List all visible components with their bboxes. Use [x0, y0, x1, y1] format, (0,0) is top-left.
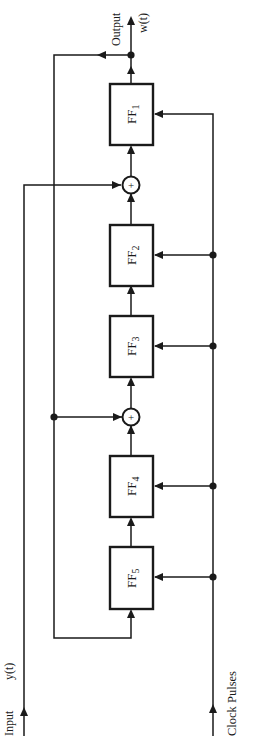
flip-flop-ff3: FF3: [110, 316, 153, 377]
input-section: Input y(t): [2, 181, 121, 736]
flip-flop-ff4: FF4: [110, 456, 153, 517]
clock-section: Clock Pulses: [154, 110, 239, 736]
arrow-up-icon: [127, 609, 135, 618]
arrow-up-icon: [127, 517, 135, 526]
arrow-right-icon: [113, 413, 122, 421]
output-signal-label: w(t): [136, 13, 150, 33]
input-wire: [24, 185, 121, 736]
arrow-left-icon: [97, 51, 106, 59]
summing-junction-b: +: [123, 409, 140, 426]
input-signal-label: y(t): [2, 663, 16, 680]
output-section: Output w(t): [109, 12, 150, 84]
arrow-left-icon: [154, 251, 163, 259]
arrow-left-icon: [154, 482, 163, 490]
arrow-right-icon: [112, 181, 121, 189]
clock-wire: [155, 114, 213, 736]
flip-flop-ff5: FF5: [110, 547, 153, 609]
arrow-left-icon: [154, 110, 163, 118]
clock-arrow-icon: [209, 704, 217, 713]
flip-flop-ff2: FF2: [110, 225, 153, 286]
flip-flop-ff1: FF1: [110, 84, 153, 145]
input-arrow-icon: [20, 707, 28, 716]
output-label: Output: [109, 12, 123, 46]
arrow-up-icon: [127, 377, 135, 386]
input-label: Input: [2, 710, 16, 736]
arrow-left-icon: [154, 573, 163, 581]
clock-label: Clock Pulses: [225, 671, 239, 736]
shift-register-diagram: Output w(t) Input y(t) C: [0, 0, 254, 756]
plus-icon: +: [128, 179, 134, 191]
arrow-left-icon: [154, 342, 163, 350]
output-arrow-icon: [127, 16, 135, 25]
arrow-up-icon: [127, 66, 135, 74]
summing-junction-a: +: [123, 177, 140, 194]
arrow-up-icon: [127, 145, 135, 154]
plus-icon: +: [128, 411, 134, 423]
